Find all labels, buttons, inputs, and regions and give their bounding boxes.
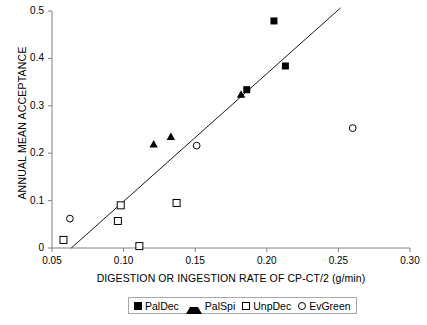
legend-label: UnpDec — [253, 300, 291, 312]
y-axis-tick-label: 0.2 — [10, 148, 44, 158]
x-axis-tick-label: 0.05 — [32, 256, 72, 266]
legend-entry-paldec: PalDec — [134, 300, 179, 312]
x-axis-tick-label: 0.30 — [390, 256, 427, 266]
y-axis-tick-label: 0 — [10, 243, 44, 253]
legend-label: PalSpi — [205, 300, 235, 312]
data-point-UnpDec — [136, 243, 143, 250]
y-axis-tick-label: 0.3 — [10, 101, 44, 111]
trendline — [71, 8, 340, 248]
x-axis-tick-label: 0.20 — [247, 256, 287, 266]
data-point-PalDec — [270, 17, 277, 24]
legend-entry-evgreen: EvGreen — [298, 300, 350, 312]
x-axis-tick-label: 0.15 — [175, 256, 215, 266]
data-point-PalDec — [282, 62, 289, 69]
legend-label: PalDec — [145, 300, 179, 312]
filled-square-icon — [134, 302, 142, 310]
data-point-PalSpi — [167, 132, 175, 140]
data-point-UnpDec — [60, 236, 67, 243]
plot-area — [0, 0, 427, 325]
open-square-icon — [242, 302, 250, 310]
x-axis-tick-label: 0.10 — [104, 256, 144, 266]
data-point-PalDec — [243, 86, 250, 93]
y-axis-tick-label: 0.1 — [10, 196, 44, 206]
legend-entry-palspi: PalSpi — [186, 298, 235, 314]
data-point-UnpDec — [114, 217, 121, 224]
open-circle-icon — [298, 302, 306, 310]
y-axis-tick-label: 0.5 — [10, 6, 44, 16]
legend-entry-unpdec: UnpDec — [242, 300, 291, 312]
data-point-EvGreen — [349, 125, 356, 132]
data-point-EvGreen — [193, 142, 200, 149]
data-point-PalSpi — [149, 140, 157, 148]
legend-label: EvGreen — [309, 300, 350, 312]
data-point-UnpDec — [173, 199, 180, 206]
filled-triangle-icon — [186, 299, 202, 314]
y-axis-tick-label: 0.4 — [10, 53, 44, 63]
data-point-UnpDec — [117, 202, 124, 209]
scatter-chart-figure: ANNUAL MEAN ACCEPTANCE DIGESTION OR INGE… — [0, 0, 427, 325]
x-axis-tick-label: 0.25 — [318, 256, 358, 266]
chart-legend: PalDecPalSpiUnpDecEvGreen — [128, 297, 357, 314]
data-point-EvGreen — [67, 215, 74, 222]
